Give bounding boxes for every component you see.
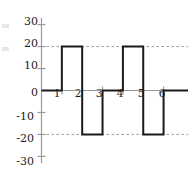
chart-plot-area [0,0,192,189]
chart-figure: 30 20 10 0 -10 -20 -30 1 2 3 4 5 6 [0,0,192,189]
